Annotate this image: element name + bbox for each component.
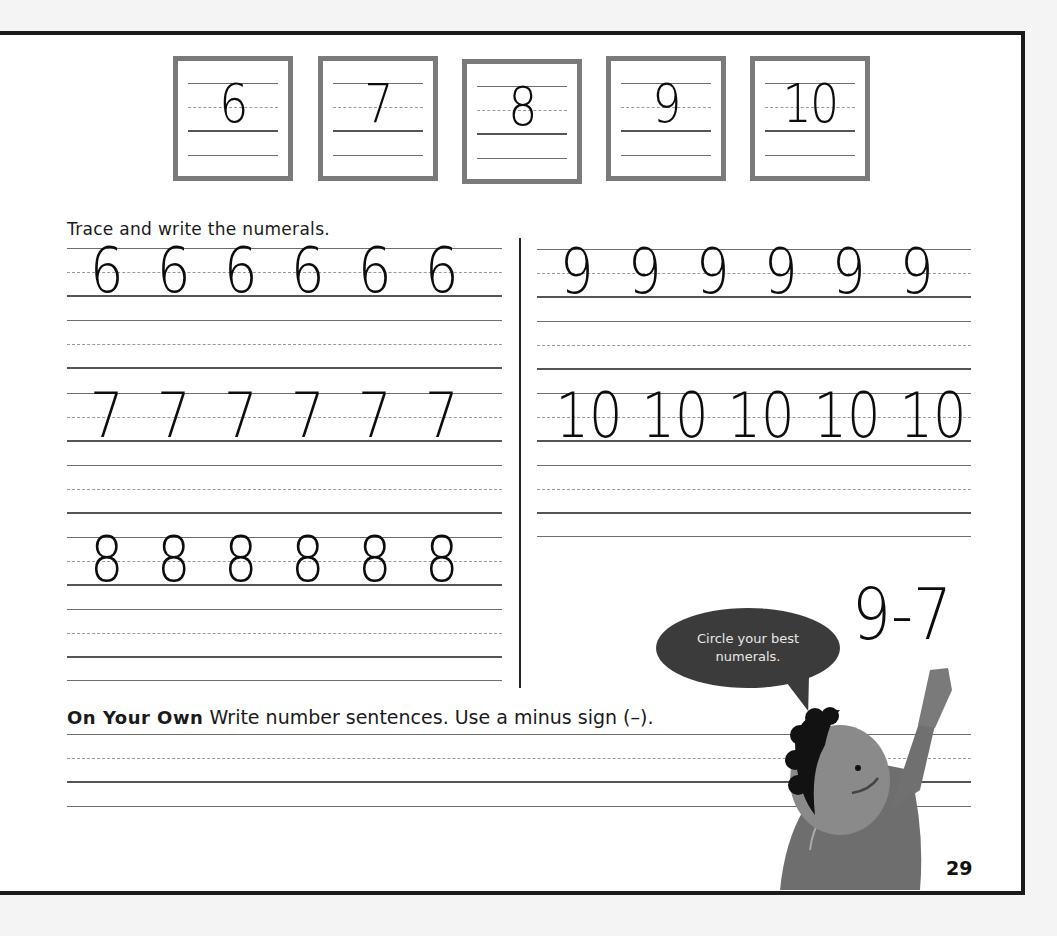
speech-bubble-text: Circle your best numerals. [688,630,808,666]
model-numeral: 9 [619,77,713,131]
model-numeral: 8 [475,80,569,134]
model-numeral: 10 [763,77,857,131]
model-box-6: 6 [173,56,293,181]
model-numeral: 6 [186,77,280,131]
traced-numerals: 7 7 7 7 7 7 [85,385,487,447]
practice-row-7[interactable]: 7 7 7 7 7 7 [67,393,502,513]
traced-numerals: 9 9 9 9 9 9 [555,241,963,303]
model-box-8: 8 [462,59,582,184]
practice-row-10[interactable]: 10 10 10 10 10 [537,393,971,537]
on-your-own-instruction: On Your Own Write number sentences. Use … [67,706,653,728]
model-box-9: 9 [606,56,726,181]
on-your-own-label: On Your Own [67,707,203,728]
traced-numerals: 8 8 8 8 8 8 [85,529,487,591]
practice-row-6[interactable]: 6 6 6 6 6 6 [67,248,502,368]
traced-numerals: 10 10 10 10 10 [549,385,979,447]
speech-bubble: Circle your best numerals. [656,608,840,688]
example-equation: 9-7 [852,578,952,650]
traced-numerals: 6 6 6 6 6 6 [85,240,487,302]
model-box-10: 10 [750,56,870,181]
page-number: 29 [946,857,972,879]
practice-row-8[interactable]: 8 8 8 8 8 8 [67,537,502,681]
column-divider [519,238,521,688]
model-numeral: 7 [331,77,425,131]
on-your-own-text: Write number sentences. Use a minus sign… [209,706,653,728]
model-box-7: 7 [318,56,438,181]
practice-row-9[interactable]: 9 9 9 9 9 9 [537,249,971,369]
